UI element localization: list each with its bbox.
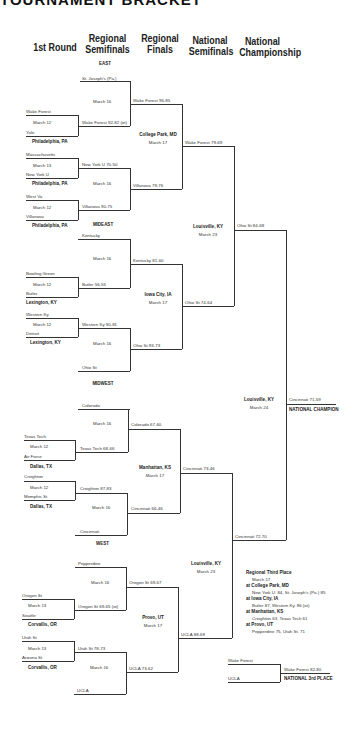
column-header-regional-finals: Regional Finals bbox=[139, 33, 182, 55]
team-slot: Ohio St 74-64 bbox=[185, 300, 212, 305]
team-slot: Bowling Green bbox=[26, 271, 55, 276]
team-slot: Villanova bbox=[26, 214, 44, 219]
game-date: March 12 bbox=[30, 444, 48, 449]
team-slot: Arizona St bbox=[22, 655, 42, 660]
game-site: Louisville, KY bbox=[182, 224, 234, 229]
column-header-1st-round: 1st Round bbox=[30, 42, 81, 53]
game-site: Louisville, KY bbox=[232, 397, 286, 402]
team-slot: UCLA bbox=[228, 676, 240, 681]
champion-score: Cincinnati 71-59 bbox=[289, 397, 321, 402]
game-date: March 17 bbox=[133, 300, 183, 305]
column-header-national-semifinals: National Semifinals bbox=[189, 35, 232, 57]
game-site: Manhattan, KS bbox=[130, 465, 180, 470]
game-site: Corvallis, OR bbox=[28, 665, 57, 670]
game-site: Iowa City, IA bbox=[133, 292, 183, 297]
team-slot: New York U 70-50 bbox=[82, 162, 117, 167]
game-date: March 17 bbox=[133, 140, 183, 145]
team-slot: Colorado bbox=[82, 403, 100, 408]
game-date: March 16 bbox=[93, 341, 111, 346]
team-slot: Utah St 78-73 bbox=[78, 646, 105, 651]
team-slot: UCLA bbox=[77, 688, 89, 693]
team-slot: Ohio St 93-73 bbox=[133, 343, 160, 348]
game-date: March 13 bbox=[28, 603, 46, 608]
region-east: EAST bbox=[95, 61, 115, 66]
team-slot: Creighton 87-83 bbox=[80, 486, 112, 491]
regional-third-place-block: Regional Third Place March 17 at College… bbox=[246, 570, 325, 635]
game-date: March 23 bbox=[180, 569, 232, 574]
team-slot: Western Ky 90-81 bbox=[82, 322, 117, 327]
game-date: March 12 bbox=[33, 205, 51, 210]
game-site: Provo, UT bbox=[128, 615, 178, 620]
team-slot: Wake Forest bbox=[228, 658, 253, 663]
team-slot: Memphis St bbox=[24, 494, 47, 499]
game-date: March 12 bbox=[33, 120, 51, 125]
game-site: College Park, MD bbox=[133, 132, 183, 137]
team-slot: Oregon St 69-67 bbox=[129, 580, 161, 585]
game-date: March 16 bbox=[92, 505, 110, 510]
page-title: TOURNAMENT BRACKET bbox=[0, 0, 202, 8]
team-slot: Oregon St 69-65 (ot) bbox=[78, 604, 118, 609]
team-slot: Massachusetts bbox=[26, 152, 55, 157]
game-date: March 17 bbox=[130, 473, 180, 478]
game-date: March 17 bbox=[128, 623, 178, 628]
game-site: Lexington, KY bbox=[30, 340, 61, 345]
team-slot: Texas Tech bbox=[24, 434, 46, 439]
game-site: Philadelphia, PA bbox=[32, 139, 68, 144]
team-slot: Utah St bbox=[22, 635, 37, 640]
team-slot: Kentucky bbox=[82, 233, 100, 238]
team-slot: Cincinnati 72-70 bbox=[235, 534, 267, 539]
national-champion-label: NATIONAL CHAMPION bbox=[289, 407, 339, 412]
game-date: March 16 bbox=[91, 580, 109, 585]
team-slot: West Va bbox=[26, 194, 42, 199]
game-site: Corvallis, OR bbox=[28, 622, 57, 627]
team-slot: Wake Forest 96-85 bbox=[133, 98, 170, 103]
team-slot: Detroit bbox=[26, 331, 39, 336]
game-date: March 13 bbox=[28, 646, 46, 651]
game-date: March 16 bbox=[93, 421, 111, 426]
game-date: March 13 bbox=[33, 163, 51, 168]
team-slot: Villanova 79-76 bbox=[133, 183, 163, 188]
game-date: March 16 bbox=[93, 99, 111, 104]
team-slot: Western Ky bbox=[26, 312, 49, 317]
column-header-regional-semifinals: Regional Semifinals bbox=[84, 33, 131, 55]
team-slot: Seattle bbox=[22, 613, 36, 618]
column-header-national-championship: National Championship bbox=[239, 36, 286, 58]
team-slot: Air Force bbox=[24, 454, 42, 459]
team-slot: Oregon St bbox=[22, 593, 42, 598]
team-slot: Villanova 90-75 bbox=[82, 204, 112, 209]
team-slot: Butler 56-55 bbox=[82, 282, 106, 287]
team-slot: Wake Forest bbox=[26, 109, 51, 114]
team-slot: Ohio St bbox=[82, 365, 97, 370]
game-site: Dallas, TX bbox=[30, 464, 52, 469]
game-site: Philadelphia, PA bbox=[32, 181, 68, 186]
game-site: Louisville, KY bbox=[180, 561, 232, 566]
team-slot: Texas Tech 68-66 bbox=[80, 446, 114, 451]
game-date: March 12 bbox=[30, 485, 48, 490]
game-date: March 24 bbox=[232, 405, 286, 410]
team-slot: Butler bbox=[26, 291, 37, 296]
team-slot: Ohio St 84-68 bbox=[237, 223, 264, 228]
team-slot: Cincinnati 73-46 bbox=[183, 466, 215, 471]
region-midwest: MIDWEST bbox=[88, 381, 118, 386]
team-slot: Wake Forest 79-69 bbox=[185, 140, 222, 145]
team-slot: New York U bbox=[26, 172, 49, 177]
team-slot: UCLA 88-69 bbox=[181, 632, 205, 637]
region-mideast: MIDEAST bbox=[88, 222, 118, 227]
team-slot: Colorado 67-60 bbox=[131, 422, 161, 427]
game-date: March 16 bbox=[93, 181, 111, 186]
region-west: WEST bbox=[90, 541, 115, 546]
third-place-score: Wake Forest 82-80 bbox=[284, 667, 321, 672]
team-slot: Creighton bbox=[24, 474, 43, 479]
team-slot: UCLA 73-62 bbox=[129, 666, 153, 671]
game-date: March 16 bbox=[90, 665, 108, 670]
game-date: March 16 bbox=[93, 256, 111, 261]
team-slot: Cincinnati bbox=[80, 529, 99, 534]
team-slot: Cincinnati 66-46 bbox=[131, 506, 163, 511]
game-date: March 12 bbox=[33, 282, 51, 287]
team-slot: Wake Forest 92-82 (ot) bbox=[82, 120, 127, 125]
team-slot: Yale bbox=[26, 130, 34, 135]
team-slot: Kentucky 81-60 bbox=[133, 258, 164, 263]
game-site: Lexington, KY bbox=[26, 300, 57, 305]
game-site: Philadelphia, PA bbox=[32, 223, 68, 228]
game-date: March 23 bbox=[182, 232, 234, 237]
